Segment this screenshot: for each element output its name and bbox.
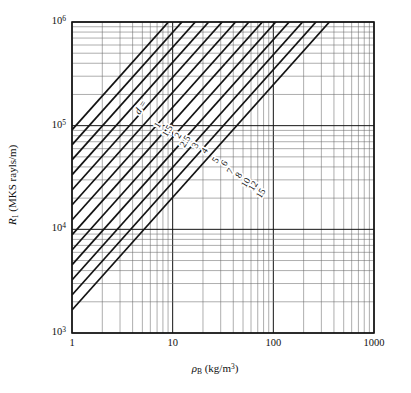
- y-tick-mantissa: 10: [52, 223, 63, 234]
- grid-lines: [72, 22, 374, 333]
- y-axis-label-subscript: 1: [11, 214, 20, 218]
- y-tick-mantissa: 10: [52, 119, 63, 130]
- family-parameter-text: d =: [132, 98, 149, 116]
- y-tick-exponent: 3: [62, 325, 66, 334]
- curve-line-d-1.5: [72, 0, 374, 295]
- y-tick-exponent: 5: [62, 118, 66, 127]
- plot-frame: [72, 22, 374, 333]
- y-tick-mantissa: 10: [52, 326, 63, 337]
- y-tick-label: 105: [32, 118, 66, 130]
- curve-label-d-6: 66: [219, 158, 230, 168]
- y-tick-exponent: 4: [62, 221, 66, 230]
- y-axis-label-symbol: R: [6, 218, 18, 225]
- curve-lines: [72, 0, 374, 310]
- y-axis-label-unit: (MKS rayls/m): [6, 145, 18, 212]
- x-tick-label: 100: [253, 337, 293, 348]
- y-tick-exponent: 6: [62, 14, 66, 23]
- x-axis-label-unit: (kg/m: [205, 362, 231, 374]
- y-tick-mantissa: 10: [52, 15, 63, 26]
- y-axis-label: R1 (MKS rayls/m): [6, 110, 20, 260]
- curve-line-d-6: [72, 0, 374, 205]
- family-parameter-label: d =d =: [132, 98, 149, 116]
- x-axis-label-subscript: B: [197, 367, 202, 376]
- y-tick-label: 103: [32, 325, 66, 337]
- y-tick-label: 106: [32, 14, 66, 26]
- x-tick-label: 1: [52, 337, 92, 348]
- curve-line-d-2.5: [72, 0, 374, 265]
- curve-label-text: 6: [219, 158, 230, 168]
- y-tick-label: 104: [32, 221, 66, 233]
- x-axis-label: ρB (kg/m3): [155, 362, 275, 376]
- x-tick-label: 10: [153, 337, 193, 348]
- x-tick-label: 1000: [354, 337, 394, 348]
- x-axis-label-unit-close: ): [235, 362, 239, 374]
- figure-root: 111.51.5222.52.5334455667788101012121515…: [0, 0, 411, 393]
- plot-frame-rect: [72, 22, 374, 333]
